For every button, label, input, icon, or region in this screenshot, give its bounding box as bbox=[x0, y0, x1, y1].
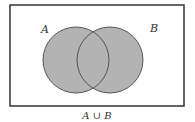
set-a-label: A bbox=[40, 23, 49, 36]
caption: A ∪ B bbox=[81, 110, 111, 121]
venn-diagram: A B A ∪ B bbox=[0, 0, 195, 122]
set-b-label: B bbox=[149, 22, 158, 35]
